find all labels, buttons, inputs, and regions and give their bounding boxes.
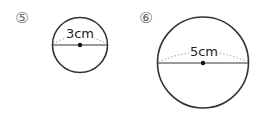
problem-6: ⑥ 5cm [139, 9, 248, 108]
problem-number-5: ⑤ [15, 9, 28, 27]
diameter-label-6: 5cm [190, 44, 218, 59]
problem-5: ⑤ 3cm [15, 9, 107, 73]
center-dot-5 [78, 43, 82, 47]
problem-number-6: ⑥ [139, 9, 152, 27]
diagram-stage: ⑤ 3cm ⑥ 5cm [0, 0, 265, 121]
diameter-label-5: 3cm [66, 26, 94, 41]
diagram-canvas: ⑤ 3cm ⑥ 5cm [0, 0, 265, 121]
center-dot-6 [201, 61, 205, 65]
